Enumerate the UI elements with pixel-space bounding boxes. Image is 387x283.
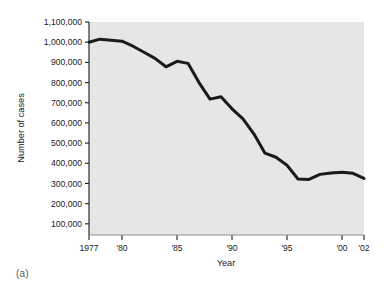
- y-axis-tick-label: 300,000: [51, 179, 82, 189]
- y-axis-tick-label: 500,000: [51, 138, 82, 148]
- x-axis-tick-label: '90: [226, 243, 237, 253]
- x-axis-tick-label: '00: [336, 243, 347, 253]
- figure-panel: 100,000200,000300,000400,000500,000600,0…: [0, 0, 387, 283]
- x-axis-tick-label: '95: [281, 243, 292, 253]
- y-axis-tick-label: 1,000,000: [44, 37, 82, 47]
- y-axis-tick-label: 800,000: [51, 78, 82, 88]
- figure-caption: (a): [16, 268, 29, 279]
- y-axis-title: Number of cases: [16, 93, 26, 163]
- y-axis-tick-label: 1,100,000: [44, 17, 82, 27]
- y-axis-tick-label: 100,000: [51, 219, 82, 229]
- x-axis-title: Year: [217, 258, 236, 268]
- x-axis-tick-label: '85: [171, 243, 182, 253]
- y-axis-tick-label: 200,000: [51, 199, 82, 209]
- x-axis-tick-label: '02: [358, 243, 369, 253]
- y-axis-tick-label: 400,000: [51, 158, 82, 168]
- y-axis-tick-label: 700,000: [51, 98, 82, 108]
- y-axis-tick-label: 600,000: [51, 118, 82, 128]
- plot-area: [89, 22, 364, 235]
- x-axis-tick-label: 1977: [79, 243, 98, 253]
- y-axis-tick-label: 900,000: [51, 57, 82, 67]
- line-chart: 100,000200,000300,000400,000500,000600,0…: [0, 0, 387, 283]
- x-axis-tick-label: '80: [116, 243, 127, 253]
